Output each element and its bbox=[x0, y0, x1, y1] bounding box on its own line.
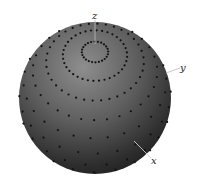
y-axis bbox=[166, 68, 180, 73]
z-axis-label: z bbox=[91, 10, 98, 21]
sphere-diagram: z y x bbox=[0, 0, 199, 186]
x-axis-label: x bbox=[151, 155, 157, 166]
sphere bbox=[19, 22, 171, 174]
y-axis-label: y bbox=[179, 62, 186, 73]
